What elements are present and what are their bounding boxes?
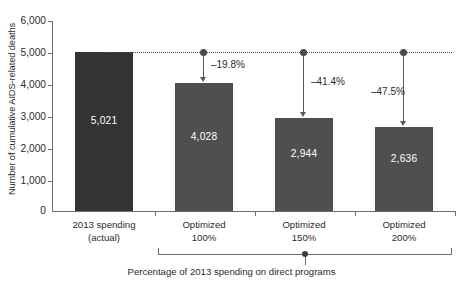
annotation-label-1: –19.8%	[211, 59, 245, 70]
bar-2013-spending-actual: 5,021	[75, 52, 133, 211]
y-tick-label-3000: 3,000	[6, 112, 46, 122]
annotation-arrow-3	[400, 121, 406, 126]
x-axis-label-line-2: 150%	[254, 232, 354, 245]
bar-value-label: 2,944	[275, 148, 333, 159]
x-axis-label-optimized-200: Optimized 200%	[354, 219, 454, 244]
annotation-stem-1	[203, 55, 204, 78]
y-tick-label-2000: 2,000	[6, 144, 46, 154]
bar-value-label: 2,636	[375, 153, 433, 164]
x-tick-mark-1	[155, 211, 156, 216]
x-axis-label-2013-spending: 2013 spending (actual)	[54, 219, 154, 244]
bar-chart: Number of cumulative AIDS-related deaths…	[0, 0, 463, 287]
bar-value-label: 5,021	[75, 115, 133, 126]
x-tick-mark-4	[455, 211, 456, 216]
bar-optimized-100: 4,028	[175, 83, 233, 211]
x-axis-line	[52, 211, 455, 212]
bracket-stem	[305, 257, 306, 265]
y-axis-ticks: 6,000 5,000 4,000 3,000 2,000 1,000 0	[6, 0, 46, 287]
x-tick-mark-2	[255, 211, 256, 216]
bracket-end-left	[158, 248, 159, 254]
x-axis-label-line-2: 200%	[354, 232, 454, 245]
x-tick-mark-3	[355, 211, 356, 216]
bar-optimized-150: 2,944	[275, 118, 333, 211]
y-axis-line	[52, 21, 53, 211]
y-tick-label-0: 0	[6, 206, 46, 216]
y-tick-label-4000: 4,000	[6, 80, 46, 90]
y-tick-label-5000: 5,000	[6, 48, 46, 58]
bar-optimized-200: 2,636	[375, 127, 433, 211]
x-axis-label-optimized-150: Optimized 150%	[254, 219, 354, 244]
annotation-arrow-2	[300, 112, 306, 117]
x-axis-label-line-1: Optimized	[154, 219, 254, 232]
annotation-label-2: –41.4%	[311, 76, 345, 87]
bar-value-label: 4,028	[175, 131, 233, 142]
x-axis-label-line-2: (actual)	[54, 232, 154, 245]
y-tick-label-6000: 6,000	[6, 16, 46, 26]
annotation-label-3: –47.5%	[371, 86, 405, 97]
x-axis-label-line-1: Optimized	[254, 219, 354, 232]
x-axis-label-optimized-100: Optimized 100%	[154, 219, 254, 244]
annotation-stem-2	[303, 55, 304, 113]
bracket-caption: Percentage of 2013 spending on direct pr…	[0, 266, 463, 277]
bracket-end-right	[451, 248, 452, 254]
y-tick-label-1000: 1,000	[6, 176, 46, 186]
x-axis-label-line-1: 2013 spending	[54, 219, 154, 232]
annotation-arrow-1	[200, 77, 206, 82]
x-axis-label-line-2: 100%	[154, 232, 254, 245]
x-axis-label-line-1: Optimized	[354, 219, 454, 232]
